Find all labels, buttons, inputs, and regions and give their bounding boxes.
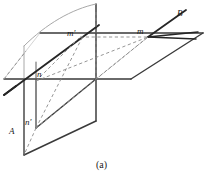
vertical-plane-lower-bottom-edge	[24, 121, 96, 155]
label-n: n	[37, 70, 42, 79]
figure-caption: (a)	[96, 160, 107, 170]
line-A	[4, 25, 99, 95]
geometry-diagram	[0, 0, 211, 181]
dashed-n-to-mprime	[36, 37, 80, 81]
label-B: B	[177, 9, 183, 18]
dashed-nprime-to-mprime	[36, 38, 82, 128]
line-B-fan-lower	[148, 37, 196, 39]
vertical-plane-lower	[24, 79, 96, 155]
label-n-prime: n'	[25, 118, 31, 127]
label-m-prime: m'	[67, 29, 75, 38]
label-A: A	[9, 127, 15, 136]
figure-container: B m' m n n' A (a)	[0, 0, 211, 181]
line-A-tail	[4, 86, 16, 95]
line-B	[148, 10, 198, 39]
line-A-segment	[4, 25, 99, 95]
label-m: m	[137, 27, 144, 36]
vertical-plane-upper	[24, 4, 96, 79]
horizontal-plane-right-edge	[131, 33, 203, 79]
